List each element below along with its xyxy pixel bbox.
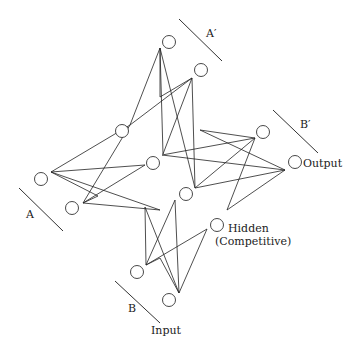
node-b-2 (163, 294, 176, 307)
edge-b-prime-18 (162, 138, 255, 155)
edge-a-prime-10 (160, 48, 195, 188)
node-a-prime-1 (163, 36, 176, 49)
edge-a-1 (51, 172, 98, 196)
network-diagram: A A′ B′ Output B Input Hidden (Competiti… (0, 0, 355, 354)
label-hidden: Hidden (228, 222, 269, 235)
edge-a-2 (51, 165, 145, 172)
node-hidden-4 (211, 219, 224, 232)
node-b-1 (131, 266, 144, 279)
label-a: A (25, 208, 35, 221)
label-input: Input (151, 324, 182, 337)
edge-a-prime-14 (192, 78, 195, 188)
edge-a-prime-15 (160, 78, 192, 97)
label-b-prime: B′ (300, 118, 311, 131)
edge-b-30 (145, 207, 179, 293)
edge-b-29 (175, 200, 179, 293)
node-hidden-3 (180, 188, 193, 201)
label-output: Output (303, 157, 343, 170)
edge-b-prime-22 (162, 155, 285, 170)
node-b-prime-1 (257, 126, 270, 139)
edge-b-28 (179, 229, 207, 293)
node-a-1 (35, 173, 48, 186)
edge-a-7 (83, 203, 160, 210)
node-hidden-1 (116, 125, 129, 138)
group-bar-a-prime (179, 19, 222, 61)
node-a-prime-2 (195, 64, 208, 77)
group-bar-b (115, 281, 160, 323)
label-a-prime: A′ (205, 27, 217, 40)
node-a-2 (66, 202, 79, 215)
edge-b-prime-17 (227, 138, 255, 210)
edge-a-6 (83, 165, 145, 203)
label-hidden-sub: (Competitive) (215, 235, 291, 248)
label-b: B (128, 302, 136, 315)
edge-b-27 (146, 258, 160, 265)
node-hidden-2 (147, 157, 160, 170)
group-bar-b-prime (273, 110, 318, 153)
edge-b-31 (160, 258, 179, 293)
connections (51, 48, 285, 293)
edge-b-26 (145, 207, 146, 265)
edge-b-25 (146, 200, 175, 265)
node-b-prime-2 (289, 156, 302, 169)
